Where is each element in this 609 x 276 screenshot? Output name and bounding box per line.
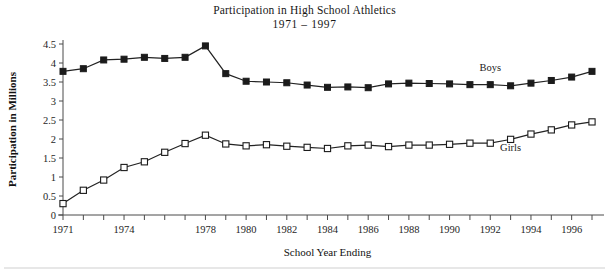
y-tick-label: 1.5 bbox=[43, 153, 56, 164]
data-point-boys-1985 bbox=[345, 84, 351, 90]
chart-plot-area: 00.511.522.533.544.519711974197819801982… bbox=[0, 0, 609, 276]
data-point-girls-1981 bbox=[263, 142, 269, 148]
data-point-girls-1974 bbox=[121, 164, 127, 170]
series-line-boys bbox=[63, 46, 592, 88]
data-point-girls-1989 bbox=[426, 142, 432, 148]
y-tick-label: 4.5 bbox=[43, 39, 56, 50]
data-point-girls-1992 bbox=[487, 140, 493, 146]
data-point-girls-1996 bbox=[569, 122, 575, 128]
data-point-boys-1976 bbox=[162, 55, 168, 61]
y-tick-label: 4 bbox=[51, 58, 57, 69]
x-tick-label: 1986 bbox=[358, 224, 379, 235]
data-point-girls-1982 bbox=[284, 143, 290, 149]
data-point-boys-1972 bbox=[80, 66, 86, 72]
x-tick-label: 1994 bbox=[520, 224, 542, 235]
data-point-boys-1980 bbox=[243, 78, 249, 84]
x-tick-label: 1982 bbox=[276, 224, 297, 235]
data-point-girls-1975 bbox=[141, 159, 147, 165]
data-point-girls-1979 bbox=[223, 141, 229, 147]
x-tick-label: 1984 bbox=[317, 224, 339, 235]
data-point-boys-1986 bbox=[365, 85, 371, 91]
data-point-boys-1973 bbox=[101, 57, 107, 63]
data-point-boys-1991 bbox=[467, 82, 473, 88]
x-tick-label: 1978 bbox=[195, 224, 216, 235]
x-axis-title: School Year Ending bbox=[284, 246, 372, 258]
data-point-girls-1983 bbox=[304, 144, 310, 150]
data-point-boys-1992 bbox=[487, 82, 493, 88]
data-point-boys-1996 bbox=[569, 74, 575, 80]
x-tick-label: 1996 bbox=[561, 224, 582, 235]
tick-labels-group: 00.511.522.533.544.519711974197819801982… bbox=[43, 39, 582, 235]
data-point-girls-1978 bbox=[202, 132, 208, 138]
data-point-boys-1987 bbox=[386, 81, 392, 87]
data-point-boys-1974 bbox=[121, 56, 127, 62]
y-tick-label: 3.5 bbox=[43, 77, 56, 88]
x-tick-label: 1980 bbox=[236, 224, 257, 235]
data-point-girls-1987 bbox=[385, 144, 391, 150]
series-label-girls: Girls bbox=[500, 142, 521, 153]
data-point-boys-1971 bbox=[60, 68, 66, 74]
y-tick-label: 1 bbox=[51, 172, 56, 183]
x-tick-label: 1992 bbox=[480, 224, 501, 235]
ticks-group bbox=[59, 44, 592, 220]
series-group bbox=[60, 43, 595, 207]
x-tick-label: 1990 bbox=[439, 224, 460, 235]
data-point-boys-1997 bbox=[589, 68, 595, 74]
data-point-girls-1971 bbox=[60, 201, 66, 207]
data-point-boys-1994 bbox=[528, 80, 534, 86]
data-point-boys-1988 bbox=[406, 80, 412, 86]
chart-figure: Participation in High School Athletics 1… bbox=[0, 0, 609, 276]
data-point-boys-1979 bbox=[223, 71, 229, 77]
data-point-boys-1993 bbox=[508, 83, 514, 89]
data-point-boys-1977 bbox=[182, 54, 188, 60]
data-point-girls-1980 bbox=[243, 143, 249, 149]
data-point-boys-1983 bbox=[304, 82, 310, 88]
x-tick-label: 1974 bbox=[114, 224, 136, 235]
data-point-girls-1995 bbox=[548, 127, 554, 133]
data-point-boys-1984 bbox=[325, 84, 331, 90]
data-point-girls-1976 bbox=[162, 149, 168, 155]
data-point-girls-1988 bbox=[406, 142, 412, 148]
data-point-girls-1991 bbox=[467, 140, 473, 146]
data-point-girls-1973 bbox=[101, 177, 107, 183]
data-point-boys-1995 bbox=[548, 77, 554, 83]
x-tick-label: 1971 bbox=[53, 224, 74, 235]
y-tick-label: 2.5 bbox=[43, 115, 56, 126]
data-point-boys-1975 bbox=[141, 54, 147, 60]
data-point-girls-1972 bbox=[80, 187, 86, 193]
data-point-girls-1984 bbox=[324, 145, 330, 151]
y-tick-label: 2 bbox=[51, 134, 56, 145]
data-point-boys-1982 bbox=[284, 80, 290, 86]
data-point-girls-1986 bbox=[365, 142, 371, 148]
y-tick-label: 3 bbox=[51, 96, 56, 107]
y-tick-label: 0 bbox=[51, 210, 56, 221]
data-point-boys-1978 bbox=[202, 43, 208, 49]
data-point-girls-1985 bbox=[345, 143, 351, 149]
data-point-boys-1981 bbox=[263, 79, 269, 85]
data-point-girls-1997 bbox=[589, 119, 595, 125]
y-tick-label: 0.5 bbox=[43, 191, 56, 202]
x-tick-label: 1988 bbox=[398, 224, 419, 235]
data-point-girls-1994 bbox=[528, 131, 534, 137]
axes-group bbox=[58, 40, 604, 215]
series-label-boys: Boys bbox=[479, 62, 501, 73]
data-point-boys-1990 bbox=[447, 81, 453, 87]
data-point-girls-1990 bbox=[446, 141, 452, 147]
data-point-boys-1989 bbox=[426, 81, 432, 87]
data-point-girls-1977 bbox=[182, 140, 188, 146]
y-axis-title: Participation in Millions bbox=[6, 71, 18, 187]
series-labels-group: BoysGirls bbox=[479, 62, 521, 153]
